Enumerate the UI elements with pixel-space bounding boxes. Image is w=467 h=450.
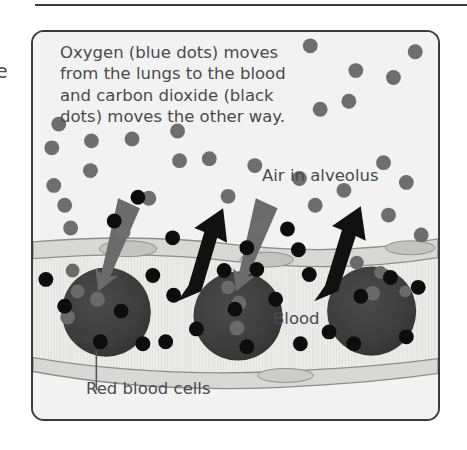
label-blood: Blood <box>273 309 320 328</box>
endothelial-nucleus-4 <box>258 369 313 383</box>
top-divider-rule <box>35 4 467 6</box>
caption-line-1: Oxygen (blue dots) moves <box>60 42 330 63</box>
figure-caption: Oxygen (blue dots) moves from the lungs … <box>60 42 330 128</box>
alveolus-diagram-panel: Oxygen (blue dots) moves from the lungs … <box>31 30 440 421</box>
label-air-in-alveolus: Air in alveolus <box>262 166 379 185</box>
cut-off-edge-text: e <box>0 62 8 81</box>
caption-line-2: from the lungs to the blood <box>60 63 330 84</box>
endothelial-nucleus-3 <box>386 241 436 255</box>
caption-line-4: dots) moves the other way. <box>60 106 330 127</box>
caption-line-3: and carbon dioxide (black <box>60 85 330 106</box>
label-red-blood-cells: Red blood cells <box>86 379 211 398</box>
